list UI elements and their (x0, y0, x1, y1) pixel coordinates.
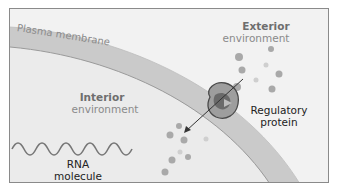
label-rna-line2: molecule (43, 170, 113, 182)
label-exterior-title: Exterior (236, 20, 296, 32)
diagram-frame: Plasma membrane Exterior environment Int… (9, 8, 329, 183)
label-exterior-sub: environment (216, 32, 296, 44)
label-interior-sub: environment (65, 103, 145, 115)
label-rna-line1: RNA (48, 158, 108, 170)
label-interior-title: Interior (72, 91, 132, 103)
label-protein-line1: Regulatory (244, 104, 314, 116)
label-protein-line2: protein (244, 116, 314, 128)
signal-molecules-exterior (233, 46, 283, 93)
